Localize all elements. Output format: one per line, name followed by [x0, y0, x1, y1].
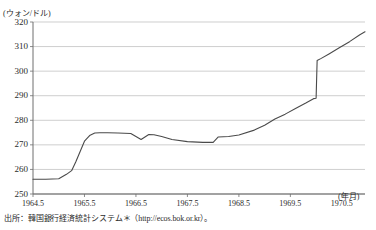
- plot-area: [0, 0, 376, 230]
- gridlines: [33, 22, 365, 194]
- y-tick-label: 280: [2, 116, 28, 125]
- x-tick-label: 1964.5: [11, 200, 55, 208]
- y-tick-label: 290: [2, 91, 28, 100]
- data-series-line: [33, 32, 365, 179]
- x-tick-label: 1970.5: [320, 200, 364, 208]
- x-tick-label: 1969.5: [268, 200, 312, 208]
- y-tick-label: 300: [2, 67, 28, 76]
- y-tick-label: 270: [2, 140, 28, 149]
- source-note: 出所：韓国銀行経済統計システム＊（http://ecos.bok.or.kr）。: [4, 212, 212, 223]
- y-tick-label: 320: [2, 18, 28, 27]
- y-tick-label: 260: [2, 165, 28, 174]
- x-tick-label: 1967.5: [165, 200, 209, 208]
- x-tick-label: 1966.5: [114, 200, 158, 208]
- y-tick-label: 250: [2, 190, 28, 199]
- y-tick-label: 310: [2, 42, 28, 51]
- chart-figure: (ウォン/ドル) (年月) 250260270280290300310320 1…: [0, 0, 376, 230]
- x-tick-label: 1965.5: [62, 200, 106, 208]
- x-tick-label: 1968.5: [217, 200, 261, 208]
- top-partial-text-row: [0, 0, 376, 8]
